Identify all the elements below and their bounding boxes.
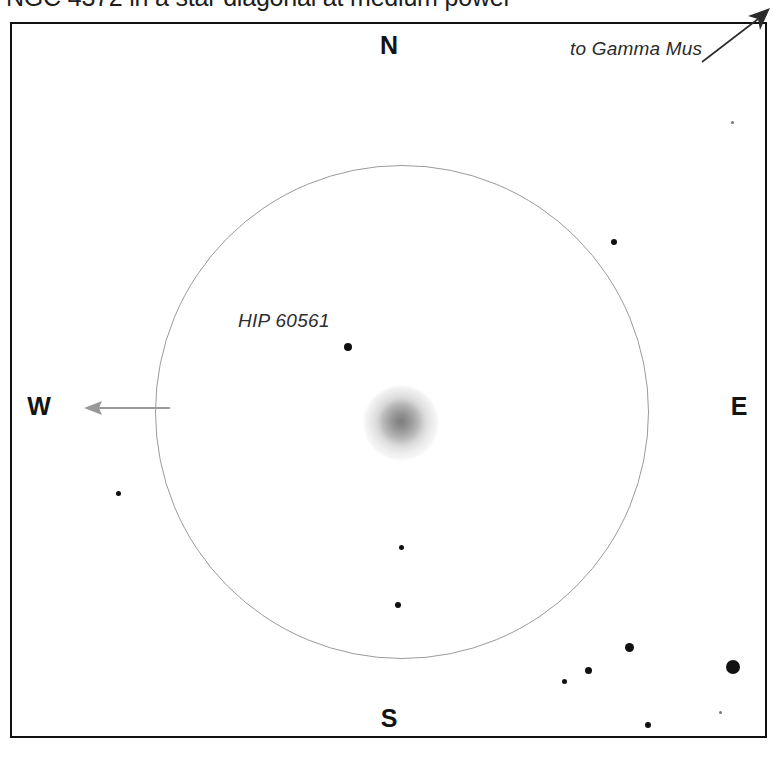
compass-label-west: W bbox=[22, 394, 56, 419]
globular-cluster-ngc4372-core bbox=[380, 401, 422, 443]
field-star bbox=[726, 660, 740, 674]
drift-direction-arrow-icon bbox=[82, 396, 172, 420]
field-star bbox=[611, 239, 617, 245]
compass-label-east: E bbox=[722, 394, 756, 419]
star-label-hip-60561: HIP 60561 bbox=[238, 310, 330, 332]
page-title: NGC 4372 in a star diagonal at medium po… bbox=[6, 0, 776, 12]
field-star bbox=[585, 667, 592, 674]
field-star bbox=[625, 643, 634, 652]
star-hip-60561 bbox=[344, 343, 352, 351]
finder-chart-frame bbox=[10, 22, 767, 738]
field-star bbox=[116, 491, 121, 496]
field-star bbox=[645, 722, 651, 728]
field-star bbox=[719, 711, 722, 714]
gamma-mus-arrow-icon bbox=[700, 6, 772, 64]
compass-label-south: S bbox=[372, 706, 406, 731]
field-star bbox=[399, 545, 404, 550]
compass-label-north: N bbox=[372, 33, 406, 58]
field-star bbox=[562, 679, 567, 684]
gamma-mus-label: to Gamma Mus bbox=[570, 38, 702, 60]
field-star bbox=[395, 602, 401, 608]
field-star bbox=[731, 121, 734, 124]
